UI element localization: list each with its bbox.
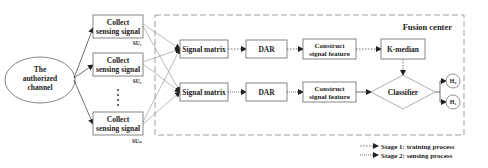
construct-1-line-2: signal feature (309, 50, 350, 58)
legend-stage-1: Stage 1: training process (381, 143, 455, 151)
su-box-n: Collect sensing signal SUₙ (93, 112, 143, 144)
su1-tag: SU₁ (133, 40, 142, 46)
source-line-3: channel (27, 83, 52, 92)
authorized-channel-node: The authorized channel (5, 57, 75, 103)
source-to-su-arrows (74, 28, 93, 124)
su-to-matrix-arrows (143, 24, 180, 124)
source-line-1: The (34, 65, 47, 74)
source-line-2: authorized (23, 74, 58, 83)
signal-matrix-1-label: Signal matrix (182, 45, 226, 54)
sun-tag: SUₙ (132, 138, 142, 144)
su-ellipsis (117, 89, 119, 106)
h0-node: H₀ (446, 74, 460, 88)
legend: Stage 1: training process Stage 2: sensi… (360, 143, 455, 160)
su2-line-1: Collect (107, 56, 130, 65)
sun-line-2: sensing signal (96, 124, 140, 133)
h0-label: H₀ (450, 78, 457, 84)
classifier-label: Classifier (388, 88, 419, 97)
k-median-label: K-median (387, 45, 420, 54)
su2-line-2: sensing signal (96, 65, 140, 74)
training-row: Signal matrix DAR Construct signal featu… (180, 39, 425, 75)
su1-line-2: sensing signal (96, 27, 140, 36)
construct-1-line-1: Construct (315, 42, 346, 50)
dar-2-label: DAR (258, 88, 275, 97)
fusion-center-boundary (155, 15, 464, 135)
classifier-outputs (435, 81, 446, 102)
system-diagram: Fusion center The authorized channel Col… (0, 0, 488, 168)
su1-line-1: Collect (107, 18, 130, 27)
construct-2-line-1: Construct (315, 85, 346, 93)
legend-stage-2: Stage 2: sensing process (381, 152, 453, 160)
signal-matrix-2-label: Signal matrix (182, 88, 226, 97)
su2-tag: SU₂ (133, 78, 142, 84)
su-box-1: Collect sensing signal SU₁ (93, 15, 143, 46)
h1-label: H₁ (450, 99, 457, 105)
sensing-row: Signal matrix DAR Construct signal featu… (180, 82, 371, 102)
su-box-2: Collect sensing signal SU₂ (93, 53, 143, 84)
sun-line-1: Collect (107, 115, 130, 124)
fusion-center-title: Fusion center (403, 22, 453, 32)
classifier-node: Classifier (371, 75, 435, 109)
construct-2-line-2: signal feature (309, 93, 350, 101)
h1-node: H₁ (446, 95, 460, 109)
dar-1-label: DAR (258, 45, 275, 54)
